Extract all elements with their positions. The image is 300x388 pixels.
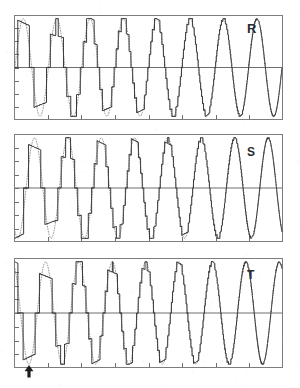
panel-R-plot	[14, 15, 283, 120]
phase-label-r: R	[247, 22, 257, 35]
start-arrow-glyph	[25, 365, 34, 377]
panel-phase-s	[14, 134, 283, 242]
phase-label-s: S	[247, 146, 256, 158]
panel-T-plot	[14, 258, 283, 368]
waveform-figure: R S T	[0, 0, 300, 388]
panel-S-plot	[14, 134, 283, 242]
phase-label-t: T	[247, 269, 255, 281]
panel-phase-t	[14, 258, 283, 368]
start-arrow-icon	[21, 364, 37, 380]
panel-phase-r	[14, 15, 283, 120]
